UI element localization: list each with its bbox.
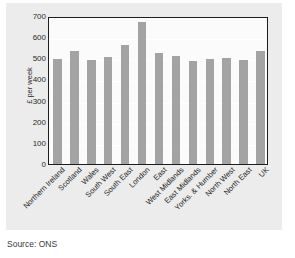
bar [222,58,230,164]
bar [172,56,180,164]
bar [104,57,112,164]
bar [70,51,78,164]
bar [53,59,61,164]
bar-slot [222,18,230,164]
bar-slot [256,18,264,164]
plot-area [48,17,268,165]
bar-series [49,18,267,164]
y-tick-label: 400 [20,76,46,84]
bar [239,60,247,164]
y-tick-label: 500 [20,55,46,63]
bar-slot [172,18,180,164]
bar [121,45,129,164]
bar-slot [206,18,214,164]
y-tick-label: 700 [20,13,46,21]
bar-slot [189,18,197,164]
x-tick-label: UK [257,166,270,179]
y-tick-label: 0 [20,161,46,169]
bar [256,51,264,164]
bar-slot [121,18,129,164]
bar-slot [70,18,78,164]
bar [206,59,214,164]
y-tick-label: 600 [20,34,46,42]
bar-slot [53,18,61,164]
y-tick-label: 200 [20,119,46,127]
y-tick-label: 100 [20,140,46,148]
bar-slot [155,18,163,164]
bar [189,61,197,164]
bar [155,53,163,164]
bar-slot [239,18,247,164]
bar [87,60,95,164]
source-caption: Source: ONS [7,239,57,249]
x-axis-tick-labels: Northern IrelandScotlandWalesSouth WestS… [48,166,268,236]
bar-slot [104,18,112,164]
bar-slot [138,18,146,164]
chart-panel: £ per week 0100200300400500600700 Northe… [6,3,282,230]
y-tick-label: 300 [20,98,46,106]
bar [138,22,146,164]
bar-slot [87,18,95,164]
y-axis-tick-labels: 0100200300400500600700 [20,17,46,165]
